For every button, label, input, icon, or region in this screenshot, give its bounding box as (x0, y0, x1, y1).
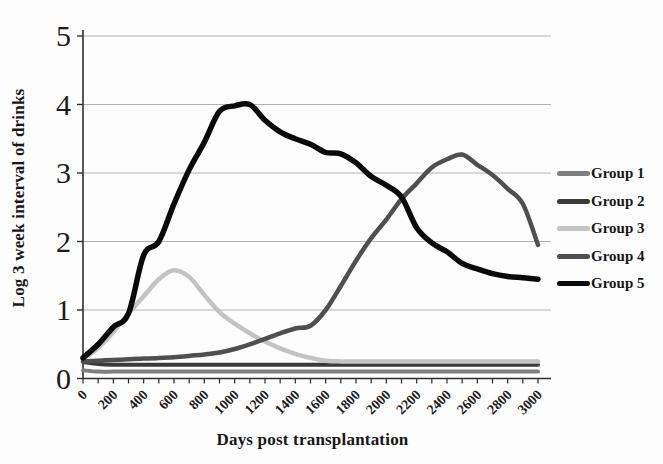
legend-item-group-5: Group 5 (557, 270, 661, 298)
legend-item-group-2: Group 2 (557, 188, 661, 216)
legend-swatch-group-2 (557, 199, 590, 204)
x-tick-label: 3000 (515, 387, 545, 417)
y-tick-label: 2 (56, 225, 71, 258)
x-tick-label: 1000 (211, 387, 241, 417)
y-tick-label: 5 (56, 19, 71, 52)
y-tick-label: 0 (56, 362, 71, 395)
legend-swatch-group-1 (557, 171, 590, 176)
x-tick-label: 1600 (302, 387, 332, 417)
x-tick-label: 2600 (454, 387, 484, 417)
x-tick-label: 400 (125, 387, 150, 412)
legend-item-group-3: Group 3 (557, 215, 661, 243)
x-tick-label: 1200 (242, 387, 272, 417)
x-tick-label: 0 (75, 387, 91, 403)
legend-label-group-4: Group 4 (591, 248, 645, 265)
series-line-group-4 (83, 154, 538, 361)
series-line-group-3 (83, 270, 538, 361)
legend-label-group-2: Group 2 (591, 193, 645, 210)
x-tick-label: 800 (186, 387, 211, 412)
legend-label-group-1: Group 1 (591, 165, 645, 182)
x-tick-label: 600 (156, 387, 181, 412)
y-tick-label: 1 (56, 293, 71, 326)
legend-item-group-1: Group 1 (557, 160, 661, 188)
y-axis-title: Log 3 week interval of drinks (9, 53, 31, 343)
series-line-group-1 (83, 370, 538, 371)
x-axis-title: Days post transplantation (120, 430, 505, 450)
x-tick-label: 2000 (363, 387, 393, 417)
x-tick-label: 1400 (272, 387, 302, 417)
legend-swatch-group-3 (557, 226, 590, 231)
y-tick-label: 3 (56, 156, 71, 189)
x-tick-label: 2800 (484, 387, 514, 417)
legend-item-group-4: Group 4 (557, 243, 661, 271)
x-tick-label: 2200 (393, 387, 423, 417)
legend-label-group-3: Group 3 (591, 220, 645, 237)
y-tick-label: 4 (56, 88, 71, 121)
x-tick-label: 200 (95, 387, 120, 412)
legend: Group 1 Group 2 Group 3 Group 4 Group 5 (557, 160, 661, 298)
x-tick-label: 1800 (333, 387, 363, 417)
legend-swatch-group-4 (557, 254, 590, 259)
legend-swatch-group-5 (557, 281, 590, 286)
x-tick-label: 2400 (424, 387, 454, 417)
line-chart-figure: 0123450200400600800100012001400160018002… (0, 0, 663, 464)
legend-label-group-5: Group 5 (591, 275, 645, 292)
series-line-group-5 (83, 104, 538, 358)
